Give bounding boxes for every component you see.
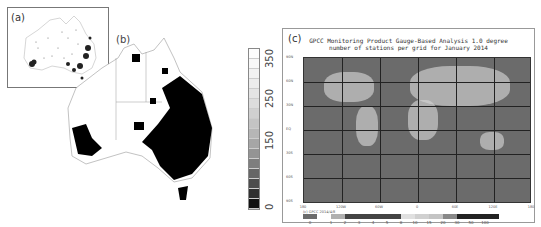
australia-gridded-map (62, 28, 247, 218)
colorbar-c-tick: 2 (344, 220, 347, 225)
colorbar-c-tick: 8 (400, 220, 403, 225)
colorbar-c-tick: 15 (426, 220, 431, 225)
colorbar-c-tick: 10 (412, 220, 417, 225)
colorbar-c-tick: 20 (440, 220, 445, 225)
colorbar-b-tick: 0 (264, 204, 275, 210)
colorbar-b-tick: 350 (264, 49, 275, 68)
colorbar-c-tick: 50 (468, 220, 473, 225)
colorbar-b-tick: 150 (264, 131, 275, 150)
y-tick: 90S (286, 199, 293, 203)
colorbar-c-tick: 1 (330, 220, 333, 225)
panel-c-colorbar (303, 214, 499, 219)
colorbar-c-tick: 3 (358, 220, 361, 225)
colorbar-c-tick: 0 (309, 220, 312, 225)
panel-a-label: (a) (11, 12, 25, 23)
y-tick: 30N (286, 103, 293, 107)
panel-c-title-line1: GPCC Monitoring Product Gauge-Based Anal… (283, 37, 534, 44)
x-tick: 0 (416, 205, 418, 209)
x-tick: 180 (300, 205, 307, 209)
colorbar-c-tick: 4 (372, 220, 375, 225)
colorbar-c-tick: 30 (454, 220, 459, 225)
world-map (303, 57, 531, 203)
x-tick: 120E (489, 205, 498, 209)
panel-c-title-line2: number of stations per grid for January … (283, 44, 534, 51)
y-tick: 60S (286, 175, 293, 179)
y-tick: 30S (286, 151, 293, 155)
colorbar-c-tick: 100 (481, 220, 489, 225)
x-tick: 120W (336, 205, 346, 209)
colorbar-c-tick: 5 (386, 220, 389, 225)
panel-c-gpcc-map: (c) GPCC Monitoring Product Gauge-Based … (282, 28, 535, 223)
y-tick: 90N (286, 55, 293, 59)
panel-b-colorbar (248, 48, 260, 210)
y-tick: 60N (286, 79, 293, 83)
x-tick: 60W (375, 205, 383, 209)
x-tick: 180 (528, 205, 535, 209)
y-tick: EQ (286, 127, 291, 131)
x-tick: 60E (452, 205, 459, 209)
colorbar-b-tick: 250 (264, 89, 275, 108)
